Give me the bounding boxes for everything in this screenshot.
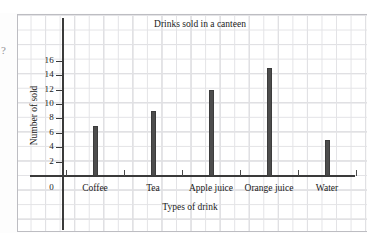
y-axis-line <box>62 18 64 230</box>
bar <box>209 90 214 176</box>
x-axis-title: Types of drink <box>135 202 245 213</box>
x-axis-tick <box>240 170 241 176</box>
y-axis-tick-label: 16 <box>32 56 54 65</box>
x-axis-category-label: Water <box>298 183 356 194</box>
x-axis-tick <box>182 170 183 176</box>
page-top-margin <box>0 0 367 13</box>
y-axis-tick-label: 0 <box>32 183 54 192</box>
x-axis-tick <box>66 170 67 176</box>
x-axis-tick <box>298 170 299 176</box>
x-axis-category-label: Coffee <box>66 183 124 194</box>
y-axis-tick <box>56 75 62 76</box>
cropped-edge-glyph: ? <box>1 44 9 60</box>
y-axis-tick <box>56 90 62 91</box>
chart-title: Drinks sold in a canteen <box>110 19 290 30</box>
bar <box>151 111 156 176</box>
y-axis-tick-label: 2 <box>32 157 54 166</box>
x-axis-category-label: Orange juice <box>240 183 298 194</box>
y-axis-title: Number of sold <box>29 76 40 156</box>
page-bottom-margin <box>0 233 367 246</box>
y-axis-tick <box>56 147 62 148</box>
bar <box>93 126 98 176</box>
bar-chart: Drinks sold in a canteen 0246810121416 C… <box>0 0 367 246</box>
y-axis-tick <box>56 61 62 62</box>
x-axis-line <box>30 175 355 177</box>
y-axis-tick <box>56 162 62 163</box>
x-axis-category-label: Tea <box>124 183 182 194</box>
y-axis-tick <box>56 104 62 105</box>
bar <box>267 68 272 176</box>
x-axis-tick <box>124 170 125 176</box>
x-axis-category-label: Apple juice <box>182 183 240 194</box>
y-axis-tick <box>56 133 62 134</box>
bar <box>325 140 330 176</box>
x-axis-tick <box>356 170 357 176</box>
y-axis-tick <box>56 118 62 119</box>
